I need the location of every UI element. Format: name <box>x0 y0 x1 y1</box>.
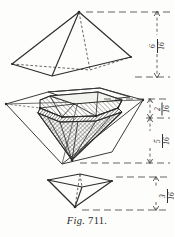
dimension-denominator: 16 <box>167 189 175 203</box>
figure-illustration <box>0 0 174 237</box>
dimension-numerator: 3 <box>159 189 167 203</box>
figure-caption-prefix: Fig. <box>67 215 85 226</box>
upper-pyramid-apex-vertex <box>78 11 81 14</box>
lower-pyramid-base-back-right <box>80 174 112 181</box>
gem-culet-vertex <box>71 159 74 162</box>
dimension-label-upper-pyramid-height: 6 16 <box>149 39 165 53</box>
upper-pyramid-base-front-right <box>52 57 131 76</box>
dimension-numerator: 5 <box>154 134 162 148</box>
lower-pyramid-vertex-left <box>47 179 49 181</box>
figure-caption-number: 711. <box>88 215 107 226</box>
figure-page: 6 16 2 16 5 16 3 16 Fig. 711. <box>0 0 174 237</box>
dimension-label-gem-crown-height: 2 16 <box>154 103 170 116</box>
dimension-5-16 <box>147 118 152 164</box>
dimension-denominator: 16 <box>161 103 170 116</box>
dimension-numerator: 6 <box>149 39 157 53</box>
lower-inverted-pyramid <box>47 174 113 208</box>
upper-square-pyramid <box>11 11 132 76</box>
lower-pyramid-base-front-left <box>48 180 82 187</box>
lower-pyramid-edge-left <box>48 180 75 207</box>
dimension-label-gem-pavilion-height: 5 16 <box>154 134 170 148</box>
dimension-denominator: 16 <box>157 39 166 53</box>
upper-pyramid-vertex-left <box>11 63 13 65</box>
upper-pyramid-edge-front <box>52 12 79 76</box>
brilliant-cut-gem-in-octahedron <box>5 88 144 164</box>
dimension-denominator: 16 <box>162 134 171 148</box>
lower-pyramid-base-back-left <box>48 174 80 180</box>
lower-pyramid-apex-vertex <box>74 206 77 209</box>
upper-pyramid-edge-right <box>79 12 131 57</box>
figure-caption: Fig. 711. <box>0 215 174 226</box>
upper-pyramid-vertex-right <box>130 56 132 58</box>
lower-pyramid-vertex-right <box>111 180 113 182</box>
upper-pyramid-edge-left <box>12 12 79 64</box>
dimension-label-lower-pyramid-height: 3 16 <box>159 189 174 203</box>
dimension-numerator: 2 <box>154 103 162 116</box>
